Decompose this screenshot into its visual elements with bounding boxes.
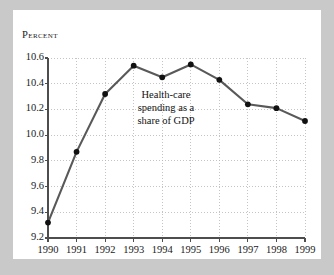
- figure-card: Percent 9.29.49.69.810.010.210.410.6 199…: [13, 10, 321, 259]
- y-tick-label-10.6: 10.6: [18, 51, 44, 62]
- data-point-1992: [102, 91, 108, 97]
- horizontal-gridlines: [48, 58, 305, 238]
- y-tick-label-10.2: 10.2: [18, 102, 44, 113]
- data-point-markers: [45, 62, 308, 226]
- vertical-gridlines: [48, 58, 305, 238]
- annotation-line-3: share of GDP: [114, 114, 218, 127]
- data-point-1997: [245, 101, 251, 107]
- y-tick-label-9.4: 9.4: [18, 205, 44, 216]
- y-tick-label-10.0: 10.0: [18, 128, 44, 139]
- axis-tick-marks: [45, 58, 306, 242]
- data-point-1998: [274, 105, 280, 111]
- y-tick-label-9.6: 9.6: [18, 180, 44, 191]
- data-point-1994: [159, 74, 165, 80]
- series-annotation: Health-care spending as a share of GDP: [114, 88, 218, 128]
- data-point-1995: [188, 62, 194, 68]
- x-axis-tick-labels: 1990199119921993199419951996199719981999: [13, 240, 321, 259]
- axis-lines: [48, 58, 305, 238]
- y-axis-tick-labels: 9.29.49.69.810.010.210.410.6: [17, 10, 44, 259]
- x-tick-label-1999: 1999: [288, 244, 322, 255]
- y-tick-label-10.4: 10.4: [18, 77, 44, 88]
- data-point-1990: [45, 220, 51, 226]
- annotation-line-2: spending as a: [114, 101, 218, 114]
- annotation-line-1: Health-care: [114, 88, 218, 101]
- y-tick-label-9.8: 9.8: [18, 154, 44, 165]
- data-point-1996: [216, 77, 222, 83]
- plot-area: [13, 10, 321, 259]
- data-point-1991: [74, 149, 80, 155]
- figure-outer-frame: Percent 9.29.49.69.810.010.210.410.6 199…: [0, 0, 334, 275]
- line-chart: Percent 9.29.49.69.810.010.210.410.6 199…: [13, 10, 321, 259]
- data-point-1999: [302, 118, 308, 124]
- data-point-1993: [131, 63, 137, 69]
